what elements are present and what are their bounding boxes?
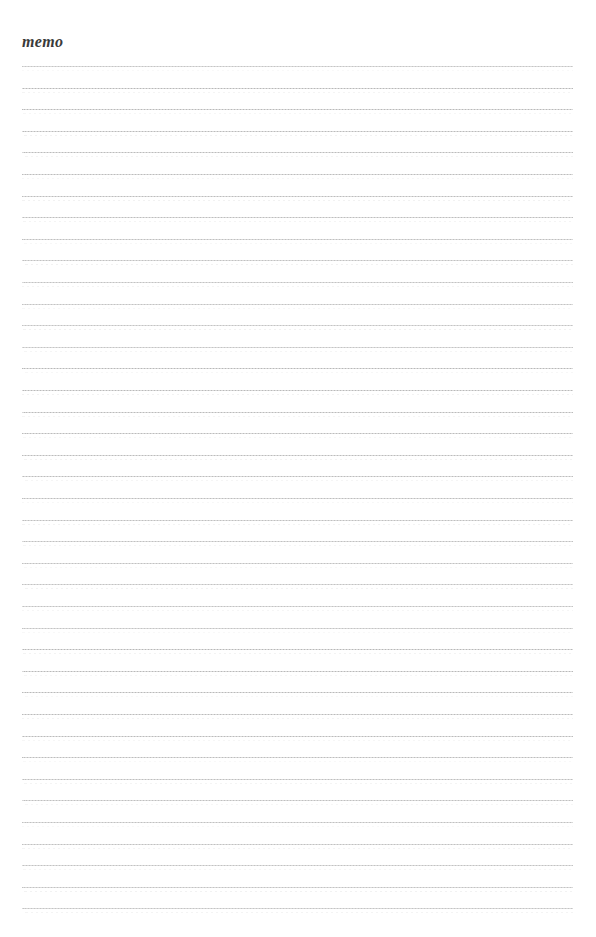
rule-line-artifact: [22, 200, 573, 201]
rule-line-artifact: [22, 351, 573, 352]
rule-line[interactable]: [22, 304, 573, 305]
rule-line[interactable]: [22, 282, 573, 283]
rule-line[interactable]: [22, 412, 573, 413]
rule-line[interactable]: [22, 757, 573, 758]
rule-line[interactable]: [22, 239, 573, 240]
rule-line-texture: [22, 649, 573, 650]
rule-line-artifact: [22, 826, 573, 827]
rule-line-artifact: [22, 653, 573, 654]
rule-line-texture: [22, 844, 573, 845]
rule-line-artifact: [22, 696, 573, 697]
rule-line-texture: [22, 304, 573, 305]
rule-line-texture: [22, 239, 573, 240]
rule-line-texture: [22, 325, 573, 326]
rule-line[interactable]: [22, 779, 573, 780]
memo-page: memo: [0, 0, 596, 937]
rule-line-texture: [22, 692, 573, 693]
rule-line[interactable]: [22, 520, 573, 521]
rule-line-artifact: [22, 286, 573, 287]
rule-line-texture: [22, 563, 573, 564]
rule-line-texture: [22, 736, 573, 737]
rule-line-artifact: [22, 912, 573, 913]
rule-line-artifact: [22, 178, 573, 179]
ruled-lines-area[interactable]: [0, 0, 596, 937]
rule-line-texture: [22, 455, 573, 456]
rule-line-texture: [22, 779, 573, 780]
rule-line-artifact: [22, 308, 573, 309]
rule-line[interactable]: [22, 692, 573, 693]
rule-line-texture: [22, 908, 573, 909]
rule-line[interactable]: [22, 563, 573, 564]
rule-line-artifact: [22, 92, 573, 93]
rule-line[interactable]: [22, 433, 573, 434]
rule-line[interactable]: [22, 800, 573, 801]
rule-line-artifact: [22, 221, 573, 222]
rule-line[interactable]: [22, 498, 573, 499]
rule-line[interactable]: [22, 66, 573, 67]
rule-line-artifact: [22, 675, 573, 676]
rule-line[interactable]: [22, 671, 573, 672]
rule-line-artifact: [22, 502, 573, 503]
rule-line-texture: [22, 282, 573, 283]
rule-line[interactable]: [22, 347, 573, 348]
rule-line-artifact: [22, 761, 573, 762]
rule-line[interactable]: [22, 88, 573, 89]
rule-line[interactable]: [22, 109, 573, 110]
rule-line-texture: [22, 757, 573, 758]
rule-line-texture: [22, 66, 573, 67]
rule-line[interactable]: [22, 606, 573, 607]
rule-line[interactable]: [22, 196, 573, 197]
rule-line-texture: [22, 347, 573, 348]
rule-line-texture: [22, 887, 573, 888]
rule-line[interactable]: [22, 887, 573, 888]
rule-line-artifact: [22, 804, 573, 805]
rule-line-texture: [22, 368, 573, 369]
rule-line[interactable]: [22, 390, 573, 391]
rule-line-artifact: [22, 567, 573, 568]
rule-line-artifact: [22, 243, 573, 244]
rule-line-artifact: [22, 113, 573, 114]
rule-line-texture: [22, 865, 573, 866]
rule-line[interactable]: [22, 736, 573, 737]
rule-line-texture: [22, 217, 573, 218]
rule-line-texture: [22, 433, 573, 434]
rule-line-artifact: [22, 437, 573, 438]
rule-line-texture: [22, 476, 573, 477]
rule-line-artifact: [22, 329, 573, 330]
rule-line-artifact: [22, 459, 573, 460]
rule-line[interactable]: [22, 822, 573, 823]
rule-line[interactable]: [22, 628, 573, 629]
rule-line-texture: [22, 520, 573, 521]
rule-line-artifact: [22, 156, 573, 157]
rule-line-texture: [22, 412, 573, 413]
rule-line[interactable]: [22, 865, 573, 866]
rule-line-artifact: [22, 264, 573, 265]
rule-line-texture: [22, 498, 573, 499]
rule-line[interactable]: [22, 714, 573, 715]
rule-line[interactable]: [22, 325, 573, 326]
rule-line-texture: [22, 260, 573, 261]
rule-line[interactable]: [22, 476, 573, 477]
rule-line[interactable]: [22, 152, 573, 153]
rule-line[interactable]: [22, 217, 573, 218]
rule-line-texture: [22, 671, 573, 672]
rule-line-artifact: [22, 848, 573, 849]
rule-line[interactable]: [22, 541, 573, 542]
rule-line-texture: [22, 714, 573, 715]
rule-line[interactable]: [22, 260, 573, 261]
rule-line[interactable]: [22, 131, 573, 132]
rule-line-artifact: [22, 394, 573, 395]
rule-line[interactable]: [22, 455, 573, 456]
rule-line[interactable]: [22, 649, 573, 650]
rule-line-texture: [22, 390, 573, 391]
rule-line[interactable]: [22, 844, 573, 845]
rule-line[interactable]: [22, 174, 573, 175]
rule-line-texture: [22, 628, 573, 629]
rule-line[interactable]: [22, 584, 573, 585]
rule-line-texture: [22, 800, 573, 801]
rule-line-texture: [22, 196, 573, 197]
rule-line[interactable]: [22, 368, 573, 369]
rule-line[interactable]: [22, 908, 573, 909]
rule-line-artifact: [22, 610, 573, 611]
rule-line-texture: [22, 822, 573, 823]
